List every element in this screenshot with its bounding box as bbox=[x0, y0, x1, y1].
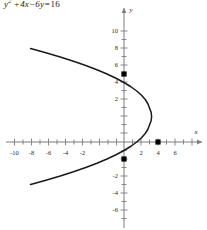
y-tick-label: 2 bbox=[115, 95, 118, 102]
marked-point bbox=[121, 71, 126, 76]
coordinate-plane: -10 -8 -6 -4 -2 2 4 6 10 8 6 4 2 -2 -4 -… bbox=[0, 0, 207, 230]
x-tick-label: -2 bbox=[80, 149, 85, 156]
x-tick-label: -4 bbox=[63, 149, 69, 156]
parabola-graph-figure: y2 +4x−6y=16 bbox=[0, 0, 207, 230]
x-axis-arrow-icon bbox=[197, 140, 202, 145]
marked-point bbox=[155, 139, 160, 144]
y-axis-arrow-icon bbox=[122, 8, 127, 13]
y-tick-label: -2 bbox=[113, 172, 118, 179]
y-tick-label: 8 bbox=[115, 44, 118, 51]
x-axis-tick-labels: -10 -8 -6 -4 -2 2 4 6 bbox=[10, 149, 177, 156]
y-tick-label: 10 bbox=[112, 27, 119, 34]
y-tick-label: -6 bbox=[113, 206, 119, 213]
x-axis-label: x bbox=[193, 128, 198, 136]
x-tick-label: 6 bbox=[173, 149, 177, 156]
parabola-curve bbox=[31, 49, 152, 185]
marked-point bbox=[121, 156, 126, 161]
x-tick-label: -8 bbox=[29, 149, 34, 156]
y-tick-label: 6 bbox=[115, 61, 119, 68]
x-tick-label: 4 bbox=[156, 149, 160, 156]
y-tick-label: -4 bbox=[113, 189, 119, 196]
x-tick-label: -10 bbox=[10, 149, 19, 156]
x-tick-label: 2 bbox=[139, 149, 142, 156]
y-axis-tick-labels: 10 8 6 4 2 -2 -4 -6 bbox=[112, 27, 119, 213]
x-tick-label: -6 bbox=[46, 149, 52, 156]
y-axis-label: y bbox=[128, 6, 133, 14]
